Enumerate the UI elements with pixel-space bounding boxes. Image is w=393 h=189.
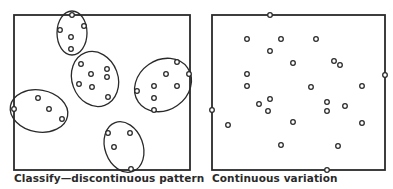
data-point <box>89 72 94 77</box>
data-point <box>152 84 157 89</box>
data-point <box>12 107 17 112</box>
data-point <box>360 121 365 126</box>
data-point <box>105 67 110 72</box>
data-point <box>268 49 273 54</box>
right-panel-frame <box>212 15 385 170</box>
data-point <box>187 72 192 77</box>
data-point <box>325 109 330 114</box>
data-point <box>245 37 250 42</box>
data-point <box>69 47 74 52</box>
data-point <box>383 73 388 78</box>
data-point <box>69 35 74 40</box>
data-point <box>343 104 348 109</box>
data-point <box>77 82 82 87</box>
data-point <box>291 61 296 66</box>
data-point <box>175 60 180 65</box>
data-point <box>152 96 157 101</box>
cluster-ellipse <box>97 116 150 178</box>
data-point <box>245 84 250 89</box>
data-point <box>338 63 343 68</box>
data-point <box>279 37 284 42</box>
data-point <box>291 120 296 125</box>
data-point <box>268 97 273 102</box>
data-point <box>128 131 133 136</box>
data-point <box>164 72 169 77</box>
data-point <box>129 167 134 172</box>
data-point <box>245 72 250 77</box>
data-point <box>325 100 330 105</box>
data-point <box>60 117 65 122</box>
right-panel-caption: Continuous variation <box>212 172 338 184</box>
data-point <box>36 96 41 101</box>
left-panel-frame <box>14 15 190 170</box>
data-point <box>257 102 262 107</box>
data-point <box>106 131 111 136</box>
data-point <box>58 28 63 33</box>
data-point <box>135 89 140 94</box>
left-panel-caption: Classify—discontinuous pattern <box>14 172 204 184</box>
data-point <box>152 108 157 113</box>
data-point <box>266 109 271 114</box>
data-point <box>79 62 84 67</box>
data-point <box>332 59 337 64</box>
data-point <box>226 123 231 128</box>
cluster-ellipse <box>7 85 71 136</box>
data-point <box>82 24 87 29</box>
data-point <box>47 107 52 112</box>
data-point <box>70 13 75 18</box>
data-point <box>210 108 215 113</box>
data-point <box>90 85 95 90</box>
data-point <box>314 37 319 42</box>
data-point <box>360 84 365 89</box>
data-point <box>336 144 341 149</box>
data-point <box>106 95 111 100</box>
data-point <box>268 13 273 18</box>
data-point <box>279 143 284 148</box>
data-point <box>175 84 180 89</box>
data-point <box>112 145 117 150</box>
diagram-canvas <box>0 0 393 189</box>
data-point <box>309 85 314 90</box>
data-point <box>105 75 110 80</box>
